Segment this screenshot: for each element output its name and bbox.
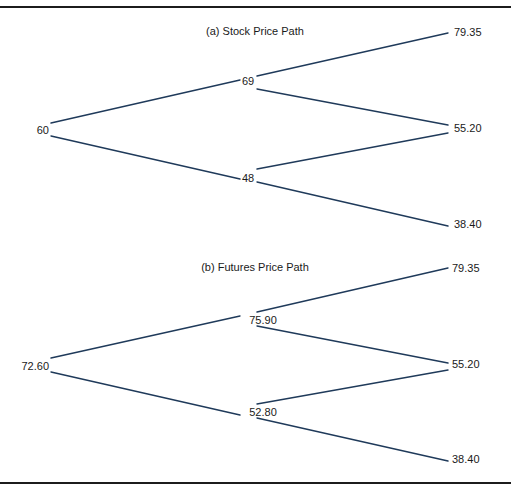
panel-b-down-node: 52.80	[249, 406, 277, 418]
edge-a-up-ud	[257, 89, 448, 125]
panel-a-dd-node: 38.40	[454, 218, 482, 230]
edge-a-down-ud	[257, 133, 448, 169]
edge-a-up-uu	[257, 33, 448, 76]
panel-b-root-node: 72.60	[21, 360, 49, 372]
edge-a-root-up	[51, 80, 240, 123]
panel-a-down-node: 48	[242, 172, 254, 184]
edge-b-root-up	[51, 316, 240, 358]
panel-a-up-node: 69	[242, 75, 254, 87]
edge-b-down-ud	[257, 370, 448, 404]
panel-a-root-node: 60	[37, 124, 49, 136]
panel-b-uu-node: 79.35	[452, 262, 480, 274]
panel-b-dd-node: 38.40	[452, 453, 480, 465]
panel-b-up-node: 75.90	[249, 314, 277, 326]
edge-b-up-uu	[257, 268, 448, 312]
edge-a-root-down	[51, 136, 240, 179]
edge-b-up-ud	[257, 326, 448, 363]
panel-b-ud-node: 55.20	[452, 358, 480, 370]
edge-b-down-dd	[257, 418, 448, 461]
panel-a-title: (a) Stock Price Path	[206, 25, 304, 37]
panel-b-title: (b) Futures Price Path	[201, 261, 309, 273]
edge-b-root-down	[51, 372, 240, 415]
panel-a-ud-node: 55.20	[454, 122, 482, 134]
edge-a-down-dd	[257, 182, 448, 226]
panel-a-uu-node: 79.35	[454, 26, 482, 38]
